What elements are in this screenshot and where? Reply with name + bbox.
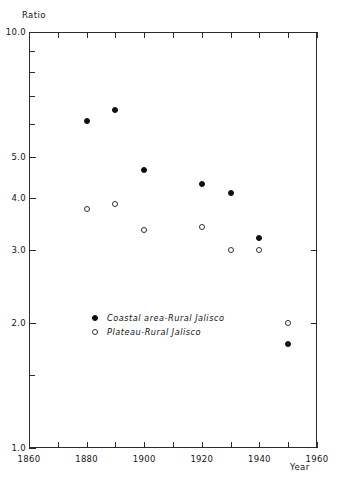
data-point xyxy=(84,118,90,124)
y-tick-4.0 xyxy=(29,198,36,199)
legend-label: Coastal area-Rural Jalisco xyxy=(107,313,224,323)
y-tick-label-4.0: 4.0 xyxy=(2,193,26,203)
x-tick-label-1900: 1900 xyxy=(127,454,161,464)
x-tick-label-1940: 1940 xyxy=(242,454,276,464)
x-tick-top-1940 xyxy=(259,32,260,38)
y-tick-label-3.0: 3.0 xyxy=(2,245,26,255)
x-tick-1860 xyxy=(29,442,30,448)
x-tick-top-1860 xyxy=(29,32,30,38)
data-point xyxy=(285,341,291,347)
x-tick-top-1960 xyxy=(317,32,318,38)
y-tick-1.0 xyxy=(29,448,36,449)
y-axis-title: Ratio xyxy=(22,10,46,20)
x-tick-1960 xyxy=(317,442,318,448)
legend-label: Plateau-Rural Jalisco xyxy=(107,327,201,337)
y-tick-10.0 xyxy=(29,32,36,33)
x-tick-label-1860: 1860 xyxy=(12,454,46,464)
x-tick-1940 xyxy=(259,442,260,448)
x-tick-1950 xyxy=(288,442,289,448)
x-tick-1890 xyxy=(115,442,116,448)
y-tick-label-2.0: 2.0 xyxy=(2,318,26,328)
data-point xyxy=(199,224,205,230)
data-point xyxy=(141,227,147,233)
x-tick-label-1880: 1880 xyxy=(70,454,104,464)
y-tick-label-5.0: 5.0 xyxy=(2,152,26,162)
y-tick-3.0 xyxy=(29,250,36,251)
x-tick-1930 xyxy=(231,442,232,448)
x-tick-top-1950 xyxy=(288,32,289,38)
y-tick-2.0 xyxy=(29,323,36,324)
y-tick-right xyxy=(311,323,317,324)
y-tick-label-1.0: 1.0 xyxy=(2,443,26,453)
y-tick-5.0 xyxy=(29,157,36,158)
x-tick-top-1880 xyxy=(87,32,88,38)
chart-legend: Coastal area-Rural JaliscoPlateau-Rural … xyxy=(92,311,224,339)
x-tick-label-1960: 1960 xyxy=(300,454,334,464)
data-point xyxy=(285,320,291,326)
x-tick-top-1910 xyxy=(173,32,174,38)
x-tick-1880 xyxy=(87,442,88,448)
x-tick-label-1920: 1920 xyxy=(185,454,219,464)
open-circle-icon xyxy=(92,329,98,335)
x-tick-1910 xyxy=(173,442,174,448)
x-tick-top-1920 xyxy=(202,32,203,38)
y-tick-minor xyxy=(29,96,35,97)
data-point xyxy=(256,247,262,253)
y-tick-minor xyxy=(29,51,35,52)
legend-item: Plateau-Rural Jalisco xyxy=(92,325,224,339)
legend-item: Coastal area-Rural Jalisco xyxy=(92,311,224,325)
x-tick-1900 xyxy=(144,442,145,448)
x-tick-top-1890 xyxy=(115,32,116,38)
y-tick-minor xyxy=(29,124,35,125)
y-tick-label-10.0: 10.0 xyxy=(2,27,26,37)
x-tick-top-1870 xyxy=(58,32,59,38)
filled-circle-icon xyxy=(92,315,98,321)
y-tick-right xyxy=(311,250,317,251)
scatter-chart: Ratio Year 10.05.04.03.02.01.0 186018801… xyxy=(0,0,338,477)
x-tick-1920 xyxy=(202,442,203,448)
plot-area xyxy=(29,32,317,448)
x-tick-1870 xyxy=(58,442,59,448)
y-tick-minor xyxy=(29,72,35,73)
x-tick-top-1930 xyxy=(231,32,232,38)
y-tick-minor xyxy=(29,375,35,376)
x-tick-top-1900 xyxy=(144,32,145,38)
data-point xyxy=(228,247,234,253)
data-point xyxy=(84,206,90,212)
data-point xyxy=(228,190,234,196)
